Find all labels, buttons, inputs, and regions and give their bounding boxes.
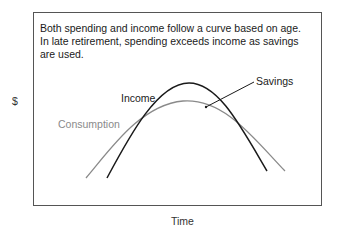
consumption-curve [86,101,285,178]
savings-pointer-line [206,82,254,107]
income-label: Income [121,92,155,104]
consumption-label: Consumption [58,118,120,130]
curves-plot [0,0,339,235]
savings-pointer-dot [205,106,207,108]
savings-label: Savings [256,75,293,87]
